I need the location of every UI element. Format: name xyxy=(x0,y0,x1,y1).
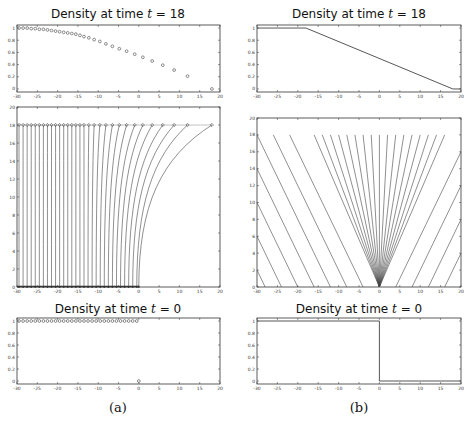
y-tick-label: 14 xyxy=(249,166,255,171)
y-tick-label: 1 xyxy=(252,319,255,324)
y-tick-label: 4 xyxy=(252,251,255,256)
characteristic xyxy=(396,152,461,287)
y-tick-label: 0.2 xyxy=(248,74,255,79)
trajectory xyxy=(116,125,134,287)
fan-line xyxy=(363,135,379,287)
x-tick-label: 20 xyxy=(458,386,464,391)
data-point xyxy=(34,27,37,30)
data-point xyxy=(131,320,134,323)
fan-line xyxy=(322,135,379,287)
x-tick-label: -25 xyxy=(34,289,41,294)
x-tick-label: -30 xyxy=(13,386,20,391)
data-point xyxy=(38,28,41,31)
axes-frame xyxy=(257,118,461,287)
y-tick-label: 18 xyxy=(9,123,15,128)
x-tick-label: 20 xyxy=(217,94,223,99)
y-tick-label: 0.6 xyxy=(8,50,15,55)
data-point xyxy=(62,320,65,323)
data-point xyxy=(118,47,121,50)
data-point xyxy=(93,38,96,41)
y-tick-label: 1 xyxy=(252,26,255,31)
data-point xyxy=(87,36,90,39)
x-tick-label: 10 xyxy=(177,94,183,99)
x-tick-label: 15 xyxy=(197,289,203,294)
data-point xyxy=(54,30,57,33)
x-tick-label: -15 xyxy=(74,386,81,391)
data-point xyxy=(79,34,82,37)
x-tick-label: 20 xyxy=(217,386,223,391)
y-tick-label: 0 xyxy=(252,86,255,91)
x-tick-label: 0 xyxy=(137,386,140,391)
data-point xyxy=(50,29,53,32)
data-point xyxy=(70,32,73,35)
y-tick-label: 0.2 xyxy=(248,367,255,372)
data-point xyxy=(42,28,45,31)
y-tick-label: 0.6 xyxy=(8,343,15,348)
data-point xyxy=(91,320,94,323)
plot-a-bot: -30-25-20-15-10-50510152000.20.40.60.81 xyxy=(8,318,223,391)
title-b-bot: Density at time t = 0 xyxy=(296,302,422,316)
characteristic xyxy=(257,203,298,288)
x-tick-label: -25 xyxy=(34,94,41,99)
fan-line xyxy=(339,135,380,287)
trajectory xyxy=(139,125,212,287)
x-tick-label: 15 xyxy=(438,386,444,391)
y-tick-label: 0.8 xyxy=(8,331,15,336)
x-tick-label: -5 xyxy=(357,289,362,294)
x-tick-label: 15 xyxy=(438,289,444,294)
x-tick-label: -15 xyxy=(315,94,322,99)
y-tick-label: 6 xyxy=(12,231,15,236)
x-tick-label: -30 xyxy=(13,289,20,294)
y-tick-label: 0.2 xyxy=(8,74,15,79)
data-point xyxy=(66,320,69,323)
data-point xyxy=(79,320,82,323)
x-tick-label: 5 xyxy=(158,94,161,99)
x-tick-label: -5 xyxy=(357,94,362,99)
x-tick-label: 10 xyxy=(177,289,183,294)
x-tick-label: -10 xyxy=(335,289,342,294)
y-tick-label: 1 xyxy=(12,26,15,31)
x-tick-label: -15 xyxy=(315,289,322,294)
x-tick-label: -25 xyxy=(274,289,281,294)
x-tick-label: -10 xyxy=(95,94,102,99)
caption-b: (b) xyxy=(350,400,368,415)
y-tick-label: 16 xyxy=(249,149,255,154)
data-point xyxy=(83,320,86,323)
data-point xyxy=(62,31,65,34)
y-tick-label: 20 xyxy=(249,116,255,121)
trajectory xyxy=(96,125,100,287)
y-tick-label: 16 xyxy=(9,141,15,146)
y-tick-label: 8 xyxy=(12,213,15,218)
data-point xyxy=(22,320,25,323)
x-tick-label: 10 xyxy=(177,386,183,391)
axes-frame xyxy=(17,318,220,384)
y-tick-label: 12 xyxy=(249,183,255,188)
x-tick-label: 15 xyxy=(197,94,203,99)
x-tick-label: 10 xyxy=(417,289,423,294)
data-point xyxy=(46,320,49,323)
fan-line xyxy=(379,135,444,287)
title-b-top: Density at time t = 18 xyxy=(292,7,426,21)
y-tick-label: 0 xyxy=(12,379,15,384)
data-point xyxy=(83,35,86,38)
trajectory xyxy=(88,125,89,287)
y-tick-label: 0.8 xyxy=(8,38,15,43)
fan-line xyxy=(379,135,412,287)
trajectory xyxy=(92,125,94,287)
fan-line xyxy=(379,135,428,287)
x-tick-label: -10 xyxy=(95,289,102,294)
x-tick-label: -20 xyxy=(54,94,61,99)
characteristic xyxy=(290,135,363,287)
fan-line xyxy=(347,135,380,287)
fan-line xyxy=(330,135,379,287)
x-tick-label: -10 xyxy=(95,386,102,391)
x-tick-label: -20 xyxy=(294,386,301,391)
characteristic xyxy=(257,135,330,287)
data-point xyxy=(98,40,101,43)
title-a-bot: Density at time t = 0 xyxy=(55,302,181,316)
y-tick-label: 10 xyxy=(9,195,15,200)
fan-line xyxy=(371,135,379,287)
x-tick-label: 15 xyxy=(197,386,203,391)
y-tick-label: 0 xyxy=(252,285,255,290)
data-point xyxy=(66,32,69,35)
